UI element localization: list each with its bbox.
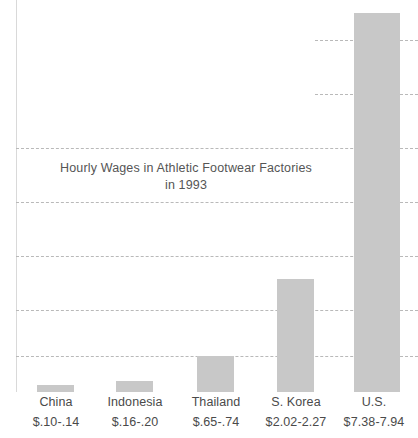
x-label-group: Indonesia$.16-.20 bbox=[90, 392, 180, 432]
bar-thailand bbox=[197, 356, 234, 392]
x-label-group: U.S.$7.38-7.94 bbox=[330, 392, 418, 432]
bar-china bbox=[37, 385, 74, 392]
x-label-value: $7.38-7.94 bbox=[330, 412, 418, 432]
bar-chart-figure: Hourly Wages in Athletic Footwear Factor… bbox=[0, 0, 418, 438]
bar-s-korea bbox=[277, 279, 314, 392]
plot-area: Hourly Wages in Athletic Footwear Factor… bbox=[0, 0, 418, 392]
x-label-value: $.10-.14 bbox=[12, 412, 100, 432]
x-label-category: China bbox=[12, 392, 100, 412]
x-label-value: $.16-.20 bbox=[90, 412, 180, 432]
x-axis-labels: China$.10-.14Indonesia$.16-.20Thailand$.… bbox=[0, 392, 418, 438]
y-axis-spine bbox=[16, 0, 17, 392]
x-label-group: China$.10-.14 bbox=[12, 392, 100, 432]
chart-title: Hourly Wages in Athletic Footwear Factor… bbox=[18, 160, 354, 194]
bar-indonesia bbox=[116, 381, 153, 392]
bar-u-s bbox=[354, 13, 400, 392]
x-label-category: Indonesia bbox=[90, 392, 180, 412]
x-label-category: U.S. bbox=[330, 392, 418, 412]
